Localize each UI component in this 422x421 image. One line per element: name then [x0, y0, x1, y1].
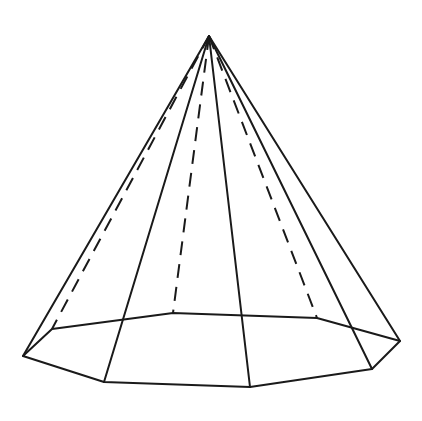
- diagram-canvas: [0, 0, 422, 421]
- hidden-edge-back: [173, 36, 209, 313]
- edge-left: [23, 36, 209, 356]
- hidden-edge-back-left: [52, 36, 209, 329]
- pyramid-base-octagon: [23, 313, 400, 387]
- edge-front-left: [104, 36, 209, 382]
- edge-right: [209, 36, 400, 341]
- edge-front-right: [209, 36, 372, 369]
- octagonal-pyramid-diagram: [0, 0, 422, 421]
